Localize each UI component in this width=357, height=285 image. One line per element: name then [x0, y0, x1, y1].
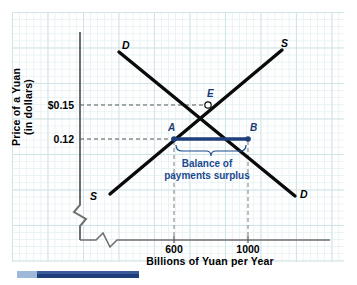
- demand-curve-label-top: D: [122, 39, 130, 51]
- point-label-e: E: [207, 88, 214, 99]
- point-marker-e: [205, 102, 211, 108]
- surplus-annotation: Balance of payments surplus: [148, 158, 266, 182]
- supply-curve-label-bottom: S: [90, 190, 97, 202]
- y-axis: [74, 32, 86, 240]
- surplus-annotation-line2: payments surplus: [164, 170, 250, 181]
- surplus-annotation-line1: Balance of: [182, 158, 233, 169]
- point-marker-a: [171, 136, 177, 142]
- progress-bar-lead: [17, 271, 37, 278]
- point-label-b: B: [250, 122, 257, 133]
- x-tick-label-600: 600: [154, 243, 194, 255]
- bottom-progress-bar[interactable]: [17, 271, 139, 278]
- y-tick-label-012: 0.12: [22, 133, 74, 145]
- x-axis: [80, 233, 330, 247]
- demand-curve-label-bottom: D: [300, 188, 308, 200]
- y-axis-title-line1: Price of a Yuan: [10, 68, 22, 146]
- point-label-a: A: [168, 122, 175, 133]
- x-axis-title: Billions of Yuan per Year: [120, 255, 300, 267]
- chart-screenshot: Price of a Yuan (in dollars) Billions of…: [0, 0, 357, 285]
- progress-bar-sheen: [37, 271, 139, 274]
- point-marker-b: [245, 136, 251, 142]
- supply-curve-label-top: S: [281, 37, 288, 49]
- x-tick-label-1000: 1000: [228, 243, 268, 255]
- y-tick-label-015: $0.15: [22, 99, 74, 111]
